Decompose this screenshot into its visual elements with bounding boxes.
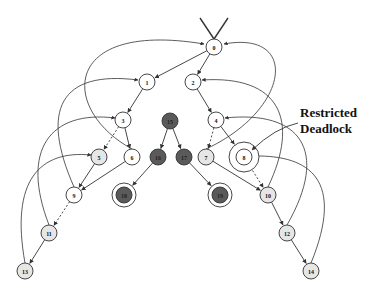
node-label: 12 [284, 231, 290, 237]
node-label: 9 [73, 193, 76, 199]
node-label: 19 [217, 193, 223, 199]
edge-12-14 [291, 240, 306, 264]
back-arcs [21, 40, 324, 263]
nodes: 012345678910111213141516171819 [17, 39, 319, 279]
node-label: 17 [181, 155, 187, 161]
node-label: 4 [215, 118, 218, 124]
annotation-line2: Deadlock [300, 121, 353, 136]
node-label: 14 [308, 269, 314, 275]
graph-canvas: 012345678910111213141516171819 Restricte… [0, 0, 379, 294]
node-label: 13 [22, 269, 28, 275]
state-node-17: 17 [176, 149, 192, 165]
edge-5-9 [79, 164, 95, 188]
edge-15-16 [161, 129, 168, 149]
node-label: 3 [122, 118, 125, 124]
node-label: 6 [131, 155, 134, 161]
node-label: 10 [265, 193, 271, 199]
state-node-14: 14 [303, 263, 319, 279]
edge-17-19 [190, 163, 212, 186]
state-node-3: 3 [115, 112, 131, 128]
state-node-10: 10 [260, 187, 276, 203]
state-node-6: 6 [124, 149, 140, 165]
edges [30, 51, 306, 264]
state-node-1: 1 [139, 74, 155, 90]
node-label: 7 [205, 155, 208, 161]
state-node-13: 13 [17, 263, 33, 279]
back-arc [254, 156, 324, 263]
back-arc [225, 117, 307, 225]
state-node-2: 2 [185, 74, 201, 90]
entry-marker [200, 18, 228, 39]
node-label: 8 [243, 155, 246, 161]
node-label: 2 [192, 80, 195, 86]
state-node-12: 12 [279, 225, 295, 241]
state-node-0: 0 [206, 39, 222, 55]
restricted-deadlock-annotation: Restricted Deadlock [252, 105, 358, 150]
state-node-9: 9 [66, 187, 82, 203]
state-node-4: 4 [208, 112, 224, 128]
node-label: 0 [213, 45, 216, 51]
state-node-16: 16 [150, 149, 166, 165]
state-node-15: 15 [162, 113, 178, 129]
state-node-5: 5 [91, 149, 107, 165]
node-label: 11 [46, 231, 52, 237]
state-node-18: 18 [112, 183, 136, 207]
state-node-8: 8 [229, 142, 259, 172]
state-node-7: 7 [198, 149, 214, 165]
edge-2-4 [197, 89, 211, 112]
node-label: 15 [167, 119, 173, 125]
back-arc [85, 40, 204, 149]
back-arc [21, 154, 91, 263]
back-arc [38, 117, 115, 225]
node-label: 5 [98, 155, 101, 161]
state-node-11: 11 [41, 225, 57, 241]
annotation-line1: Restricted [300, 105, 358, 120]
back-arc [206, 42, 275, 149]
edge-11-13 [30, 240, 45, 264]
edge-16-18 [133, 163, 153, 185]
node-label: 1 [146, 80, 149, 86]
node-label: 18 [121, 193, 127, 199]
edge-0-2 [198, 54, 210, 74]
state-node-19: 19 [208, 183, 232, 207]
annotation-arrow [252, 123, 298, 150]
edge-4-8 [221, 126, 235, 144]
node-label: 16 [155, 155, 161, 161]
edge-1-3 [128, 89, 143, 113]
deadlock-state-graph: 012345678910111213141516171819 Restricte… [0, 0, 379, 294]
edge-15-17 [173, 128, 181, 148]
edge-0-1 [155, 51, 207, 78]
edge-10-12 [272, 202, 283, 225]
edge-9-11 [54, 202, 70, 226]
